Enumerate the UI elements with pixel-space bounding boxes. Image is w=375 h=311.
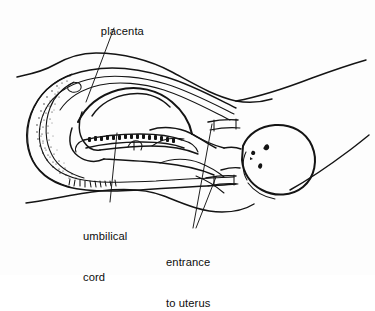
label-entrance-to-uterus: entrance to uterus	[166, 229, 210, 311]
leader-entrance-lower	[196, 177, 216, 228]
uterus-wall	[27, 68, 236, 191]
label-placenta: placenta	[88, 11, 144, 52]
cervix-entrance-upper	[208, 120, 238, 122]
fetus-face	[250, 144, 269, 171]
leader-lines	[86, 28, 216, 228]
placenta-stipple-texture	[36, 75, 76, 178]
label-umbilical-cord-line1: umbilical	[83, 230, 127, 244]
fetus-head	[242, 125, 315, 199]
label-entrance-to-uterus-line1: entrance	[166, 256, 210, 270]
label-umbilical-cord-line2: cord	[83, 271, 127, 285]
label-entrance-to-uterus-line2: to uterus	[166, 297, 210, 311]
placenta-villi-fringe	[69, 179, 116, 187]
label-umbilical-cord: umbilical cord	[83, 203, 127, 311]
label-placenta-text: placenta	[101, 25, 144, 37]
